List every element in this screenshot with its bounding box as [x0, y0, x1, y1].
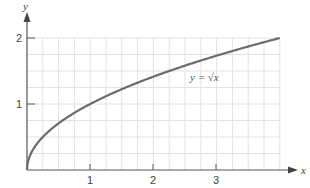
- curve-label: y = √x: [189, 71, 219, 83]
- ticks: 1 2 3 1 2: [16, 32, 219, 186]
- grid: [27, 38, 280, 170]
- y-axis-label: y: [22, 0, 28, 12]
- y-axis-arrow-icon: [24, 12, 31, 22]
- x-tick-3: 3: [213, 174, 219, 186]
- x-axis-label: x: [300, 164, 306, 176]
- y-tick-1: 1: [16, 98, 22, 110]
- x-axis-arrow-icon: [288, 167, 298, 174]
- sqrt-chart: x y 1 2 3 1 2 y = √x: [0, 0, 310, 188]
- x-tick-1: 1: [87, 174, 93, 186]
- y-tick-2: 2: [16, 32, 22, 44]
- x-tick-2: 2: [150, 174, 156, 186]
